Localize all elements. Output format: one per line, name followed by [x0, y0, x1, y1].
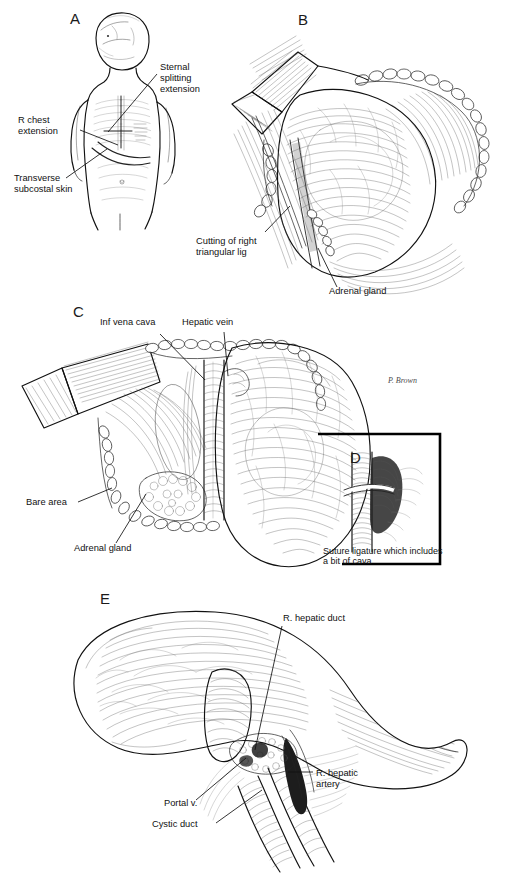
- label-line: a bit of cava: [323, 556, 372, 566]
- panel-letter-d: D: [350, 449, 361, 466]
- label-line: Adrenal gland: [74, 543, 131, 553]
- surgical-figure: P. Brown: [0, 0, 528, 880]
- fat-lobules-b: [252, 68, 490, 219]
- porta-hepatis-e: [200, 730, 358, 872]
- label-line: Cystic duct: [152, 819, 198, 829]
- label-line: Inf vena cava: [100, 317, 156, 327]
- label-line: R. hepatic duct: [283, 613, 345, 623]
- label-line: Hepatic vein: [182, 317, 233, 327]
- panel-b-illustration: [232, 36, 490, 294]
- label-line: extension: [160, 84, 200, 94]
- fat-lobules-c: [97, 339, 326, 532]
- adrenal-gland-mass-c: [139, 472, 206, 521]
- label-line: Bare area: [26, 497, 68, 507]
- label-line: triangular lig: [196, 247, 247, 257]
- panel-letter-b: B: [298, 11, 308, 28]
- gallbladder-e: [205, 668, 252, 761]
- panel-letter-c: C: [73, 303, 84, 320]
- label-portal-v: Portal v.: [164, 798, 197, 808]
- label-bare-area: Bare area: [26, 497, 68, 507]
- label-adrenal-gland-c: Adrenal gland: [74, 543, 131, 553]
- label-inf-vena-cava: Inf vena cava: [100, 317, 156, 327]
- panel-letter-e: E: [100, 590, 110, 607]
- label-line: artery: [316, 779, 340, 789]
- artist-signature: P. Brown: [387, 376, 417, 385]
- label-line: R chest: [18, 115, 50, 125]
- label-line: subcostal skin: [14, 184, 72, 194]
- label-cutting-of-right-triangular-lig: Cutting of right triangular lig: [196, 236, 257, 257]
- label-r-hepatic-duct: R. hepatic duct: [283, 613, 345, 623]
- panel-letter-a: A: [70, 10, 80, 27]
- label-line: R. hepatic: [316, 768, 358, 778]
- label-line: Sternal: [160, 62, 189, 72]
- label-r-chest-extension: R chest extension: [18, 115, 58, 136]
- label-adrenal-gland-b: Adrenal gland: [329, 286, 386, 296]
- cava-tube-d: [352, 452, 372, 552]
- label-transverse-subcostal-skin: Transverse subcostal skin: [14, 173, 72, 194]
- label-line: Portal v.: [164, 798, 197, 808]
- label-line: Transverse: [14, 173, 60, 183]
- panel-a-illustration: [66, 13, 175, 230]
- label-sternal-splitting-extension: Sternal splitting extension: [160, 62, 200, 94]
- label-line: Adrenal gland: [329, 286, 386, 296]
- figure-canvas: P. Brown: [0, 0, 528, 880]
- label-cystic-duct: Cystic duct: [152, 819, 198, 829]
- label-line: Suture ligature which includes: [323, 546, 443, 556]
- panel-e-illustration: [74, 611, 467, 872]
- label-line: Cutting of right: [196, 236, 257, 246]
- ivc-tube-c: [204, 360, 224, 520]
- label-line: extension: [18, 126, 58, 136]
- label-r-hepatic-artery: R. hepatic artery: [316, 768, 358, 789]
- label-hepatic-vein: Hepatic vein: [182, 317, 233, 327]
- label-line: splitting: [160, 73, 192, 83]
